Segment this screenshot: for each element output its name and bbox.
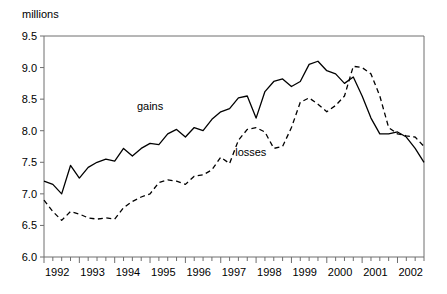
x-axis-tick-label: 1995	[151, 266, 175, 278]
x-axis-tick-label: 1994	[116, 266, 140, 278]
y-axis-tick-label: 6.5	[22, 219, 37, 231]
series-line-gains	[44, 61, 424, 194]
series-label-losses: losses	[235, 146, 267, 158]
x-axis-tick-label: 1997	[222, 266, 246, 278]
x-axis-tick-label: 2000	[328, 266, 352, 278]
x-axis-tick-label: 2001	[363, 266, 387, 278]
plot-frame-top-right	[44, 36, 424, 257]
series-line-losses	[44, 66, 424, 220]
y-axis-tick-label: 8.0	[22, 125, 37, 137]
series-label-gains: gains	[137, 100, 164, 112]
x-axis-tick-label: 2002	[399, 266, 423, 278]
y-axis-tick-label: 6.0	[22, 251, 37, 263]
x-axis-tick-label: 1992	[45, 266, 69, 278]
x-axis-tick-label: 1998	[257, 266, 281, 278]
x-axis-tick-label: 1999	[292, 266, 316, 278]
line-chart: millions 6.06.57.07.58.08.59.09.51992199…	[0, 0, 447, 294]
y-axis-tick-label: 9.0	[22, 62, 37, 74]
y-axis-tick-label: 8.5	[22, 93, 37, 105]
chart-plot-area: 6.06.57.07.58.08.59.09.51992199319941995…	[0, 0, 447, 294]
y-axis-tick-label: 9.5	[22, 30, 37, 42]
y-axis-tick-label: 7.0	[22, 188, 37, 200]
x-axis-tick-label: 1993	[80, 266, 104, 278]
y-axis-tick-label: 7.5	[22, 156, 37, 168]
x-axis-tick-label: 1996	[186, 266, 210, 278]
